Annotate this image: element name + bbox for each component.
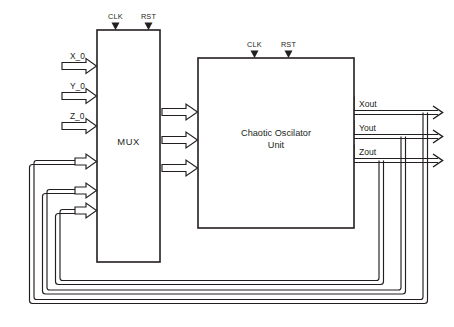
- feedback-arrow-2: [75, 183, 97, 198]
- internal-bus-arrow-3: [162, 160, 198, 176]
- output-label-yout: Yout: [359, 123, 377, 133]
- output-bus-xout: [354, 111, 438, 115]
- oscillator-label-line2: Unit: [268, 140, 285, 150]
- internal-bus-arrow-2: [162, 132, 198, 148]
- mux-rst-label: RST: [141, 12, 157, 21]
- diagram-svg: CLK RST CLK RST X_0 Y_0 Z_0 MUX Chaotic …: [0, 0, 454, 327]
- oscillator-clk-label: CLK: [247, 40, 262, 49]
- input-label-x0: X_0: [70, 51, 85, 61]
- block-diagram-canvas: CLK RST CLK RST X_0 Y_0 Z_0 MUX Chaotic …: [0, 0, 454, 327]
- oscillator-rst-arrow-icon: [285, 51, 293, 59]
- feedback-arrow-3: [75, 203, 97, 218]
- oscillator-clk-arrow-icon: [251, 51, 259, 59]
- output-bus-zout: [354, 159, 438, 163]
- output-label-zout: Zout: [359, 147, 377, 157]
- input-arrow-x0: [62, 59, 97, 74]
- output-bus-yout: [354, 135, 438, 139]
- input-arrow-z0: [62, 119, 97, 134]
- mux-rst-arrow-icon: [145, 23, 153, 31]
- mux-clk-arrow-icon: [112, 23, 120, 31]
- output-arrow-zout: [433, 154, 443, 167]
- oscillator-label-line1: Chaotic Oscilator: [241, 128, 311, 138]
- feedback-arrow-1: [75, 154, 97, 169]
- oscillator-rst-label: RST: [281, 40, 297, 49]
- mux-label: MUX: [117, 136, 140, 147]
- output-arrow-xout: [433, 106, 443, 119]
- input-label-z0: Z_0: [70, 111, 85, 121]
- output-label-xout: Xout: [359, 99, 377, 109]
- output-arrow-yout: [433, 130, 443, 143]
- input-label-y0: Y_0: [70, 81, 85, 91]
- internal-bus-arrow-1: [162, 104, 198, 120]
- input-arrow-y0: [62, 89, 97, 104]
- mux-clk-label: CLK: [108, 12, 123, 21]
